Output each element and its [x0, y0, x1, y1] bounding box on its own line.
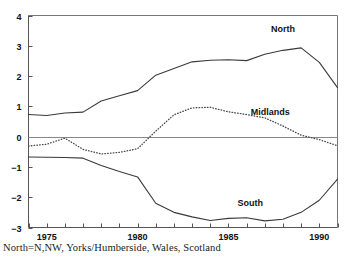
x-tick-label: 1980: [128, 232, 148, 242]
x-axis-ticks: [30, 224, 339, 228]
x-tick-label: 1990: [309, 232, 329, 242]
y-tick-label: 0: [16, 133, 21, 143]
chart-figure: 43210−1−2−3 1975198019851990 NorthMidlan…: [0, 0, 351, 262]
y-axis-ticks: [29, 17, 33, 229]
series-line-midlands: [29, 107, 338, 154]
y-tick-label: 1: [16, 102, 21, 112]
x-axis-tick-labels: 1975198019851990: [37, 232, 330, 242]
x-tick-label: 1985: [218, 232, 238, 242]
y-tick-label: 2: [16, 72, 21, 82]
series-label-south: South: [238, 198, 264, 208]
series-line-north: [29, 48, 338, 116]
series-label-midlands: Midlands: [251, 107, 290, 117]
chart-caption: North=N,NW, Yorks/Humberside, Wales, Sco…: [3, 242, 221, 253]
regional-trends-line-chart: 43210−1−2−3 1975198019851990 NorthMidlan…: [0, 0, 351, 262]
y-tick-label: 3: [16, 42, 21, 52]
x-tick-label: 1975: [37, 232, 57, 242]
y-tick-label: −3: [11, 224, 21, 234]
y-axis-tick-labels: 43210−1−2−3: [11, 12, 21, 234]
series-annotations: NorthMidlandsSouth: [238, 24, 295, 208]
y-tick-label: −1: [11, 163, 21, 173]
plot-frame-border: [29, 16, 338, 228]
series-line-south: [29, 157, 338, 221]
y-tick-label: 4: [16, 12, 21, 22]
y-tick-label: −2: [11, 193, 21, 203]
data-series-group: [29, 48, 338, 221]
plot-frame: [29, 16, 338, 228]
series-label-north: North: [271, 24, 295, 34]
